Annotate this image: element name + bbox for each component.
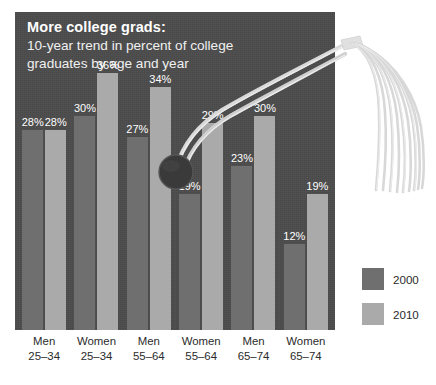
- chart-figure: More college grads: 10-year trend in per…: [0, 0, 436, 385]
- x-axis-tick: Men55–64: [123, 334, 175, 363]
- x-axis-labels: Men25–34Women25–34Men55–64Women55–64Men6…: [18, 334, 332, 363]
- bar-group: 27%34%: [123, 12, 175, 330]
- bar-value-label: 30%: [74, 102, 96, 114]
- x-tick-line-2: 65–74: [280, 349, 332, 364]
- bar-2000-women-25–34: 30%: [74, 116, 95, 331]
- legend-item-2010: 2010: [362, 303, 419, 325]
- bar-2010-women-65–74: 19%: [307, 194, 328, 330]
- bar-slot: 19%: [178, 12, 201, 330]
- bar-2010-men-25–34: 28%: [45, 130, 66, 330]
- bar-2010-women-55–64: 29%: [202, 123, 223, 330]
- chart-plot-area: 28%28%30%36%27%34%19%29%23%30%12%19%: [15, 12, 335, 330]
- legend-swatch-icon: [362, 303, 384, 325]
- x-axis-tick: Women55–64: [175, 334, 227, 363]
- bar-slot: 30%: [73, 12, 96, 330]
- bar-group: 28%28%: [18, 12, 70, 330]
- x-tick-line-1: Women: [175, 334, 227, 349]
- bar-2000-men-65–74: 23%: [231, 166, 252, 330]
- bar-value-label: 27%: [126, 123, 148, 135]
- bar-slot: 23%: [230, 12, 253, 330]
- bar-value-label: 19%: [179, 180, 201, 192]
- bar-2000-women-55–64: 19%: [179, 194, 200, 330]
- bar-2000-men-55–64: 27%: [127, 137, 148, 330]
- bar-value-label: 28%: [22, 116, 44, 128]
- x-tick-line-2: 25–34: [70, 349, 122, 364]
- legend-swatch-icon: [362, 268, 384, 290]
- bar-slot: 34%: [149, 12, 172, 330]
- bar-group: 30%36%: [70, 12, 122, 330]
- x-axis-tick: Women65–74: [280, 334, 332, 363]
- bar-2000-women-65–74: 12%: [284, 244, 305, 330]
- x-tick-line-2: 55–64: [175, 349, 227, 364]
- bar-value-label: 12%: [283, 230, 305, 242]
- bar-slot: 30%: [253, 12, 276, 330]
- x-tick-line-2: 65–74: [227, 349, 279, 364]
- x-tick-line-1: Women: [280, 334, 332, 349]
- bar-2010-women-25–34: 36%: [97, 73, 118, 330]
- bar-value-label: 28%: [45, 116, 67, 128]
- bar-2000-men-25–34: 28%: [22, 130, 43, 330]
- bar-value-label: 23%: [231, 152, 253, 164]
- x-tick-line-2: 25–34: [18, 349, 70, 364]
- bar-value-label: 19%: [306, 180, 328, 192]
- bar-slot: 27%: [126, 12, 149, 330]
- legend-label: 2010: [393, 308, 419, 321]
- bar-slot: 19%: [306, 12, 329, 330]
- bar-groups: 28%28%30%36%27%34%19%29%23%30%12%19%: [18, 12, 332, 330]
- bar-slot: 36%: [96, 12, 119, 330]
- bar-2010-men-65–74: 30%: [254, 116, 275, 331]
- x-tick-line-1: Men: [123, 334, 175, 349]
- x-tick-line-1: Men: [227, 334, 279, 349]
- legend-label: 2000: [393, 273, 419, 286]
- x-tick-line-1: Women: [70, 334, 122, 349]
- bar-value-label: 29%: [202, 109, 224, 121]
- bar-slot: 29%: [201, 12, 224, 330]
- x-tick-line-1: Men: [18, 334, 70, 349]
- bar-value-label: 36%: [97, 59, 119, 71]
- legend-item-2000: 2000: [362, 268, 419, 290]
- bar-value-label: 34%: [149, 73, 171, 85]
- bar-slot: 28%: [21, 12, 44, 330]
- bar-2010-men-55–64: 34%: [150, 87, 171, 330]
- chart-legend: 20002010: [362, 268, 419, 338]
- bar-group: 23%30%: [227, 12, 279, 330]
- bar-group: 12%19%: [280, 12, 332, 330]
- x-axis-tick: Men25–34: [18, 334, 70, 363]
- bar-value-label: 30%: [254, 102, 276, 114]
- x-axis-tick: Men65–74: [227, 334, 279, 363]
- bar-slot: 28%: [44, 12, 67, 330]
- bar-slot: 12%: [283, 12, 306, 330]
- bar-group: 19%29%: [175, 12, 227, 330]
- x-axis-tick: Women25–34: [70, 334, 122, 363]
- x-tick-line-2: 55–64: [123, 349, 175, 364]
